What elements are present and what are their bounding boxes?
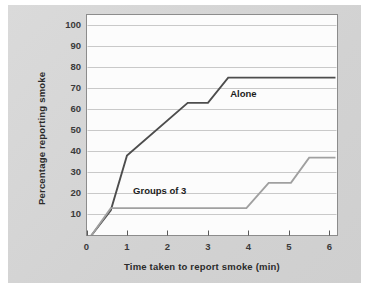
y-tick-label: 80 <box>56 61 81 72</box>
x-axis-title: Time taken to report smoke (min) <box>124 261 280 272</box>
y-tick-label: 100 <box>56 19 81 30</box>
x-tick-label: 3 <box>196 241 220 252</box>
y-tick-label: 90 <box>56 40 81 51</box>
figure-container: Percentage reporting smoke Time taken to… <box>0 0 369 291</box>
x-tick-label: 6 <box>317 241 341 252</box>
y-axis-title: Percentage reporting smoke <box>36 72 47 205</box>
plot-panel <box>87 15 338 236</box>
y-tick-label: 60 <box>56 103 81 114</box>
x-tick-label: 4 <box>236 241 260 252</box>
series-label-groups-of-3: Groups of 3 <box>133 185 186 196</box>
y-tick-label: 70 <box>56 82 81 93</box>
y-tick-label: 10 <box>56 208 81 219</box>
y-tick-label: 40 <box>56 145 81 156</box>
x-tick-label: 0 <box>75 241 99 252</box>
y-tick-label: 50 <box>56 124 81 135</box>
x-tick-label: 2 <box>155 241 179 252</box>
x-tick-label: 1 <box>115 241 139 252</box>
series-label-alone: Alone <box>230 88 256 99</box>
y-tick-label: 20 <box>56 187 81 198</box>
y-tick-label: 30 <box>56 166 81 177</box>
x-tick-label: 5 <box>277 241 301 252</box>
